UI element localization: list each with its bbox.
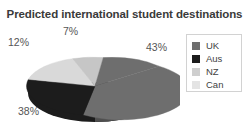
chart-legend: UK Aus NZ Can: [186, 34, 242, 92]
legend-label-nz: NZ: [206, 67, 219, 77]
legend-swatch-can: [192, 81, 200, 89]
pie-label-uk: 43%: [146, 41, 167, 53]
legend-label-uk: UK: [206, 41, 219, 51]
pie-chart-figure: Predicted international student destinat…: [0, 0, 249, 128]
pie-graphic: [20, 24, 180, 124]
legend-swatch-uk: [192, 42, 200, 50]
legend-item-uk: UK: [192, 40, 241, 52]
pie-label-nz: 12%: [8, 36, 29, 48]
legend-item-aus: Aus: [192, 53, 241, 65]
chart-title: Predicted international student destinat…: [0, 8, 249, 20]
legend-item-can: Can: [192, 79, 241, 91]
legend-label-can: Can: [206, 80, 223, 90]
legend-label-aus: Aus: [206, 54, 222, 64]
pie-plot-area: [20, 24, 180, 124]
pie-label-can: 7%: [63, 25, 78, 37]
legend-swatch-nz: [192, 68, 200, 76]
pie-label-aus: 38%: [18, 105, 39, 117]
legend-swatch-aus: [192, 55, 200, 63]
legend-item-nz: NZ: [192, 66, 241, 78]
